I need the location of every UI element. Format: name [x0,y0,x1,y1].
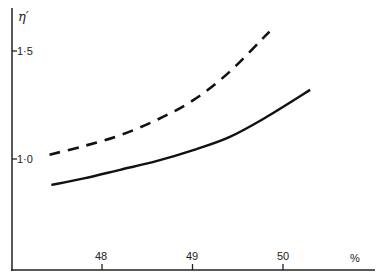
x-ticks [102,264,283,270]
x-tick-label-50: 50 [277,251,289,262]
y-tick-label-1-5: 1·5 [17,46,33,57]
y-tick-label-1-0: 1·0 [17,154,33,165]
x-axis-unit-label: % [350,253,360,264]
solid-series-line [51,90,310,185]
dashed-series-line [50,32,270,155]
x-tick-label-48: 48 [95,251,107,262]
chart-plot-area [0,0,382,279]
x-tick-label-49: 49 [186,251,198,262]
y-axis-label: η′ [18,10,29,23]
